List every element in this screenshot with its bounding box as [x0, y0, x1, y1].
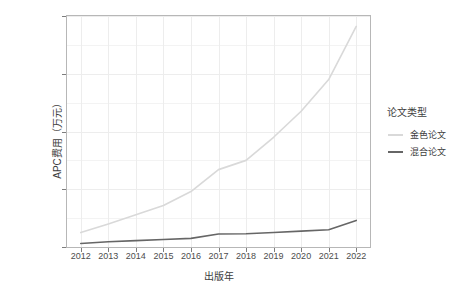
- plot-area: [67, 16, 370, 247]
- legend-item-label: 金色论文: [410, 128, 446, 141]
- series-line: [81, 26, 356, 232]
- series-line: [81, 220, 356, 243]
- legend-item[interactable]: 混合论文: [387, 143, 470, 160]
- chart-container: APC费用（万元） 01000200030004000 201220132014…: [0, 0, 470, 290]
- y-axis-title: APC费用（万元）: [49, 39, 64, 239]
- legend-items: 金色论文混合论文: [387, 126, 470, 160]
- legend: 论文类型 金色论文混合论文: [387, 104, 470, 160]
- legend-line-swatch-icon: [387, 143, 404, 160]
- legend-item-label: 混合论文: [410, 145, 446, 158]
- plot-panel: [66, 15, 371, 248]
- x-tick-label: 2022: [336, 252, 376, 261]
- legend-line-swatch-icon: [387, 126, 404, 143]
- legend-item[interactable]: 金色论文: [387, 126, 470, 143]
- legend-title: 论文类型: [387, 104, 470, 119]
- x-axis-title: 出版年: [66, 268, 372, 283]
- series-lines: [67, 16, 370, 247]
